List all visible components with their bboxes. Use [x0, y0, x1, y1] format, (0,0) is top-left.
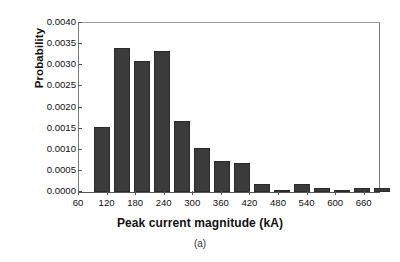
bar: [194, 148, 210, 192]
x-axis-tick-mark: [364, 191, 365, 195]
bar-series: [79, 23, 379, 192]
y-axis-tick-label: 0.0010: [32, 143, 76, 154]
y-axis-tick-label: 0.0015: [32, 122, 76, 133]
x-axis-tick-mark: [335, 191, 336, 195]
y-axis-tick-label: 0.0040: [32, 16, 76, 27]
bar: [254, 184, 270, 192]
bar: [174, 121, 190, 192]
y-axis-tick-mark: [78, 43, 82, 44]
figure-container: Probability 0.00000.00050.00100.00150.00…: [0, 0, 400, 262]
x-axis-tick-mark: [135, 191, 136, 195]
y-axis-tick-mark: [78, 170, 82, 171]
x-axis-tick-mark: [78, 191, 79, 195]
bar: [314, 188, 330, 192]
y-axis-tick-mark: [78, 85, 82, 86]
bar: [114, 48, 130, 192]
y-axis-tick-label: 0.0035: [32, 37, 76, 48]
bar: [274, 190, 290, 192]
y-axis-tick-label: 0.0025: [32, 79, 76, 90]
y-axis-tick-mark: [78, 107, 82, 108]
y-axis-tick-label: 0.0005: [32, 164, 76, 175]
bar: [354, 188, 370, 192]
x-axis-tick-mark: [249, 191, 250, 195]
x-axis-tick-mark: [164, 191, 165, 195]
bar: [234, 163, 250, 192]
plot-area: [78, 22, 380, 193]
bar: [134, 61, 150, 192]
figure-caption: (a): [0, 238, 400, 249]
x-axis-tick-mark: [192, 191, 193, 195]
bar: [374, 188, 390, 192]
y-axis-tick-mark: [78, 128, 82, 129]
x-axis-tick-mark: [221, 191, 222, 195]
bar: [214, 161, 230, 192]
y-axis-tick-mark: [78, 64, 82, 65]
y-axis-tick-label: 0.0020: [32, 101, 76, 112]
bar: [94, 127, 110, 192]
x-axis-title: Peak current magnitude (kA): [0, 216, 400, 230]
y-axis-tick-label: 0.0030: [32, 58, 76, 69]
x-axis-tick-mark: [307, 191, 308, 195]
y-axis-tick-mark: [78, 149, 82, 150]
bar: [154, 51, 170, 192]
bar: [294, 184, 310, 192]
x-axis-tick-label: 660: [344, 197, 384, 208]
x-axis-tick-mark: [107, 191, 108, 195]
x-axis-tick-mark: [278, 191, 279, 195]
y-axis-tick-label: 0.0000: [32, 185, 76, 196]
bar: [334, 190, 350, 192]
y-axis-tick-mark: [78, 22, 82, 23]
